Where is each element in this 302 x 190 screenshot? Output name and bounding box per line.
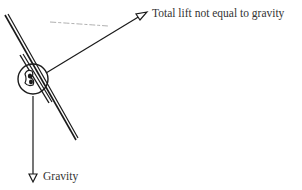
gravity-label: Gravity (43, 170, 78, 182)
force-diagram (0, 0, 302, 190)
insect-head-icon (25, 70, 34, 85)
wing-plane (5, 14, 78, 140)
lift-label: Total lift not equal to gravity (152, 7, 284, 19)
wing-bar (20, 54, 52, 103)
motion-streak (50, 22, 108, 26)
lift-arrow (46, 12, 147, 73)
gravity-arrow (29, 96, 37, 182)
